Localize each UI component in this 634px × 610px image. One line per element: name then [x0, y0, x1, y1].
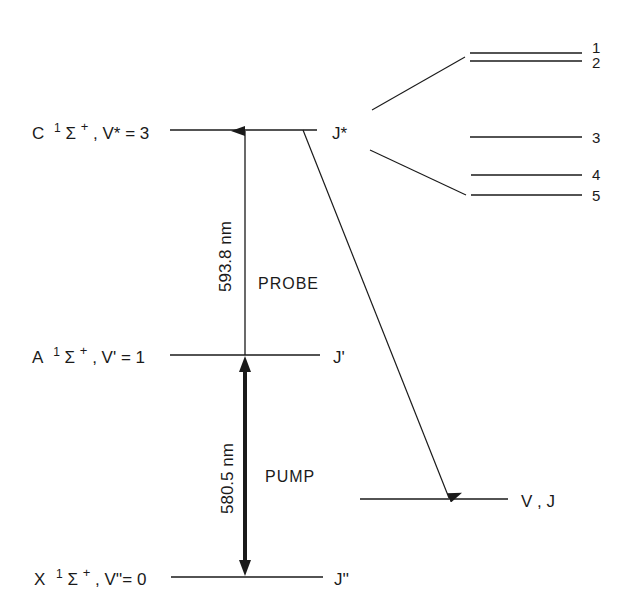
probe-transition: 593.8 nm PROBE	[216, 131, 319, 355]
level-a-sym: Σ	[65, 348, 76, 367]
level-x: X 1 Σ + , V''= 0 J''	[34, 562, 349, 589]
level-x-sym: Σ	[68, 570, 79, 589]
level-final-label: V , J	[521, 492, 555, 511]
level-x-vib: , V''= 0	[95, 570, 146, 589]
energy-level-diagram: C 1 Σ + , V* = 3 J* A 1 Σ + , V' = 1 J' …	[0, 0, 634, 610]
level-c-sup: +	[81, 119, 89, 134]
fan-line-lower	[370, 150, 466, 195]
svg-text:X 1 Σ +: X 1 Σ + , V''= 0	[34, 562, 146, 589]
pump-transition: 580.5 nm PUMP	[218, 356, 315, 576]
pump-wavelength: 580.5 nm	[218, 443, 237, 514]
level-final: V , J	[360, 492, 555, 511]
level-x-term: 1	[56, 567, 63, 581]
level-c-term: 1	[54, 121, 61, 135]
level-a-sup: +	[80, 343, 88, 358]
svg-text:A 1 Σ +: A 1 Σ + , V' = 1	[32, 340, 145, 367]
level-a-state: A	[32, 348, 44, 367]
emission-transition	[303, 130, 449, 498]
sublevel-label-4: 4	[592, 166, 600, 183]
level-c: C 1 Σ + , V* = 3 J*	[32, 116, 348, 143]
level-a-vib: , V' = 1	[92, 348, 145, 367]
probe-wavelength: 593.8 nm	[216, 221, 235, 292]
svg-text:C 1 Σ +: C 1 Σ + , V* = 3	[32, 116, 149, 143]
sublevel-label-2: 2	[592, 54, 600, 71]
level-x-sup: +	[83, 565, 91, 580]
probe-label: PROBE	[258, 275, 319, 292]
level-a-rot: J'	[333, 348, 345, 367]
fan-line-upper	[372, 57, 465, 110]
level-c-sym: Σ	[65, 124, 76, 143]
pump-arrowhead-down	[239, 560, 251, 576]
sublevel-label-3: 3	[592, 129, 600, 146]
level-c-state: C	[32, 124, 44, 143]
level-c-vib: , V* = 3	[93, 124, 149, 143]
sublevel-label-5: 5	[592, 187, 600, 204]
level-a: A 1 Σ + , V' = 1 J'	[32, 340, 345, 367]
level-c-rot: J*	[332, 124, 348, 143]
emission-arrow	[303, 130, 449, 498]
sublevels: 1 2 3 4 5	[470, 39, 600, 204]
level-x-rot: J''	[334, 570, 349, 589]
level-x-state: X	[34, 570, 45, 589]
level-a-term: 1	[53, 345, 60, 359]
pump-label: PUMP	[265, 468, 315, 485]
pump-arrowhead-up	[239, 356, 251, 372]
